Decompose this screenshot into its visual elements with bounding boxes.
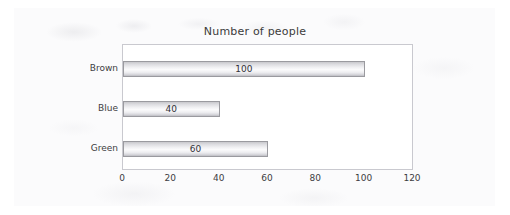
- chart-title: Number of people: [0, 25, 510, 38]
- x-axis-tick-100: 100: [349, 173, 379, 183]
- y-axis-label-blue: Blue: [8, 100, 118, 116]
- bar-value-label-brown: 100: [123, 61, 365, 77]
- bar-value-label-green: 60: [123, 141, 268, 157]
- x-axis-tick-40: 40: [204, 173, 234, 183]
- x-axis-tick-labels: 020406080100120: [122, 173, 413, 187]
- y-axis-category-labels: Brown Blue Green: [8, 44, 118, 170]
- x-axis-tick-60: 60: [252, 173, 282, 183]
- x-axis-tick-120: 120: [397, 173, 427, 183]
- x-axis-tick-20: 20: [155, 173, 185, 183]
- x-axis-tick-80: 80: [300, 173, 330, 183]
- scanned-page: Number of people Brown Blue Green 100 40…: [0, 0, 510, 215]
- bar-value-label-blue: 40: [123, 101, 220, 117]
- y-axis-label-green: Green: [8, 140, 118, 156]
- x-axis-tick-0: 0: [107, 173, 137, 183]
- plot-area: 100 40 60: [122, 44, 413, 170]
- y-axis-label-brown: Brown: [8, 60, 118, 76]
